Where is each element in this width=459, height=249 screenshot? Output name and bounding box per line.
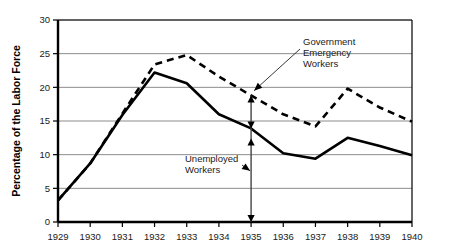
x-tick-label: 1937: [305, 231, 326, 242]
x-tick-label: 1932: [144, 231, 165, 242]
annotation-label: Government: [303, 36, 356, 47]
line-chart: Percentage of the Labor Force 0510152025…: [0, 0, 459, 249]
y-tick-labels: 051015202530: [39, 14, 50, 227]
y-axis-title: Percentage of the Labor Force: [10, 45, 22, 197]
x-tick-labels: 1929193019311932193319341935193619371938…: [47, 231, 422, 242]
y-tick-label: 0: [45, 216, 50, 227]
y-tick-label: 25: [39, 48, 50, 59]
annotation-label: Unemployed: [185, 153, 238, 164]
x-tick-label: 1930: [80, 231, 101, 242]
chart-container: Percentage of the Labor Force 0510152025…: [0, 0, 459, 249]
x-tick-label: 1936: [273, 231, 294, 242]
x-tick-label: 1933: [176, 231, 197, 242]
y-tick-label: 5: [45, 183, 50, 194]
y-tick-label: 30: [39, 14, 50, 25]
x-tick-label: 1931: [112, 231, 133, 242]
y-tick-label: 10: [39, 149, 50, 160]
y-tick-label: 20: [39, 82, 50, 93]
x-tick-label: 1940: [401, 231, 422, 242]
x-tick-label: 1935: [241, 231, 262, 242]
annotation-label: Workers: [303, 58, 338, 69]
x-tick-label: 1938: [337, 231, 358, 242]
x-tick-label: 1929: [47, 231, 68, 242]
annotation-label: Workers: [185, 164, 220, 175]
x-tick-label: 1939: [369, 231, 390, 242]
x-tick-label: 1934: [208, 231, 229, 242]
y-tick-label: 15: [39, 115, 50, 126]
annotation-label: Emergency: [303, 47, 351, 58]
